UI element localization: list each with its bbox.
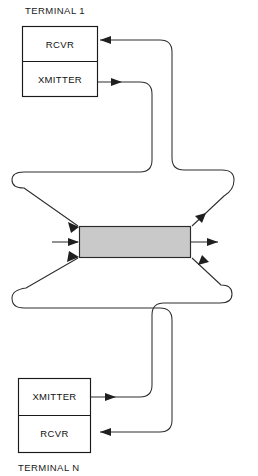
link-hub-to-rcvr1 xyxy=(100,40,234,226)
arrowhead-from-xmitter1 xyxy=(111,78,122,86)
arrowhead-into-rcvrn xyxy=(100,428,111,436)
terminal-n-box: XMITTER RCVR xyxy=(19,379,91,453)
arrowhead-hub-in-lower-right xyxy=(198,255,209,265)
arrowhead-into-rcvr1 xyxy=(100,36,111,44)
arrowhead-hub-out-right xyxy=(207,238,218,246)
diagram-canvas: TERMINAL 1 RCVR XMITTER XMITTER RCVR TER… xyxy=(0,0,258,476)
terminal-1-title: TERMINAL 1 xyxy=(25,5,85,16)
central-hub-block xyxy=(80,227,191,258)
terminal-n-xmitter-label: XMITTER xyxy=(32,391,76,402)
arrowhead-hub-in-left xyxy=(68,238,79,246)
terminal-n-title: TERMINAL N xyxy=(18,462,80,473)
terminal-1-xmitter-label: XMITTER xyxy=(38,74,82,85)
terminal-1-rcvr-label: RCVR xyxy=(46,39,74,50)
arrowhead-hub-in-upper-left xyxy=(68,222,79,233)
arrowhead-from-xmittern xyxy=(105,393,116,401)
terminal-1-box: RCVR XMITTER xyxy=(23,27,98,97)
terminal-n-rcvr-label: RCVR xyxy=(40,428,68,439)
link-xmittern-to-hub xyxy=(91,258,232,397)
link-xmitter1-to-hub xyxy=(12,82,152,226)
network-topology-diagram: TERMINAL 1 RCVR XMITTER XMITTER RCVR TER… xyxy=(0,0,258,476)
